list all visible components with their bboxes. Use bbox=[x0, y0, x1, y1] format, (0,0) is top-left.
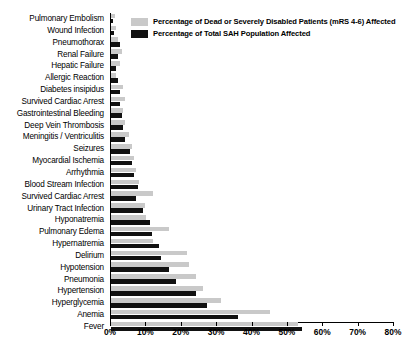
category-label: Hyponatremia bbox=[0, 214, 107, 226]
category-label: Blood Stream Infection bbox=[0, 179, 107, 191]
x-axis-tick-label: 30% bbox=[208, 327, 225, 337]
bar-black bbox=[111, 54, 118, 59]
category-label: Gastrointestinal Bleeding bbox=[0, 108, 107, 120]
bar-gray bbox=[111, 26, 116, 31]
bar-gray bbox=[111, 108, 123, 113]
category-axis-labels: Pulmonary EmbolismWound InfectionPneumot… bbox=[0, 13, 107, 333]
category-label: Arrhythmia bbox=[0, 167, 107, 179]
bar-black bbox=[111, 66, 116, 71]
bar-black bbox=[111, 125, 123, 130]
bar-row bbox=[111, 72, 394, 84]
x-axis-tick bbox=[393, 322, 394, 326]
bar-gray bbox=[111, 262, 189, 267]
category-label: Diabetes insipidus bbox=[0, 84, 107, 96]
x-axis-tick bbox=[322, 322, 323, 326]
bar-row bbox=[111, 297, 394, 309]
bar-black bbox=[111, 244, 159, 249]
category-label: Hyperglycemia bbox=[0, 297, 107, 309]
x-axis-tick-label: 20% bbox=[172, 327, 189, 337]
x-axis-tick bbox=[287, 322, 288, 326]
bar-row bbox=[111, 131, 394, 143]
bar-row bbox=[111, 108, 394, 120]
bar-gray bbox=[111, 168, 136, 173]
category-label: Wound Infection bbox=[0, 25, 107, 37]
category-label: Hepatic Failure bbox=[0, 60, 107, 72]
category-label: Myocardial Ischemia bbox=[0, 155, 107, 167]
bar-black bbox=[111, 315, 238, 320]
bar-row bbox=[111, 49, 394, 61]
bar-row bbox=[111, 250, 394, 262]
x-axis-tick bbox=[110, 322, 111, 326]
x-axis-tick bbox=[145, 322, 146, 326]
x-axis-tick bbox=[181, 322, 182, 326]
category-label: Survived Cardiac Arrest bbox=[0, 191, 107, 203]
bar-black bbox=[111, 220, 150, 225]
bar-gray bbox=[111, 97, 125, 102]
bar-gray bbox=[111, 251, 187, 256]
bar-gray bbox=[111, 191, 153, 196]
bar-row bbox=[111, 179, 394, 191]
category-label: Delirium bbox=[0, 250, 107, 262]
bar-black bbox=[111, 31, 114, 36]
bar-row bbox=[111, 214, 394, 226]
bar-row bbox=[111, 191, 394, 203]
legend-entry-gray: Percentage of Dead or Severely Disabled … bbox=[131, 16, 395, 27]
chart-legend: Percentage of Dead or Severely Disabled … bbox=[131, 16, 395, 40]
bar-row bbox=[111, 309, 394, 321]
bar-black bbox=[111, 208, 143, 213]
category-label: Seizures bbox=[0, 143, 107, 155]
bar-row bbox=[111, 120, 394, 132]
bar-row bbox=[111, 60, 394, 72]
bar-gray bbox=[111, 73, 116, 78]
bar-row bbox=[111, 226, 394, 238]
category-label: Survived Cardiac Arrest bbox=[0, 96, 107, 108]
bar-row bbox=[111, 274, 394, 286]
bar-black bbox=[111, 78, 118, 83]
legend-swatch-black-icon bbox=[131, 30, 148, 38]
bar-gray bbox=[111, 61, 120, 66]
bar-rows bbox=[111, 13, 394, 322]
bar-gray bbox=[111, 227, 169, 232]
bar-gray bbox=[111, 49, 122, 54]
legend-label-gray: Percentage of Dead or Severely Disabled … bbox=[153, 17, 395, 26]
bar-black bbox=[111, 303, 207, 308]
x-axis-tick-label: 10% bbox=[137, 327, 154, 337]
x-axis-tick-label: 60% bbox=[314, 327, 331, 337]
bar-row bbox=[111, 84, 394, 96]
bar-black bbox=[111, 102, 120, 107]
bar-black bbox=[111, 256, 161, 261]
bar-gray bbox=[111, 286, 203, 291]
bar-gray bbox=[111, 144, 132, 149]
category-label: Renal Failure bbox=[0, 49, 107, 61]
x-axis: 0%10%20%30%40%50%60%70%80% bbox=[110, 322, 393, 344]
category-label: Urinary Tract Infection bbox=[0, 203, 107, 215]
bar-row bbox=[111, 155, 394, 167]
category-label: Anemia bbox=[0, 309, 107, 321]
bar-black bbox=[111, 173, 134, 178]
bar-black bbox=[111, 113, 122, 118]
legend-swatch-gray-icon bbox=[131, 18, 148, 26]
bar-row bbox=[111, 143, 394, 155]
bar-black bbox=[111, 291, 196, 296]
bar-black bbox=[111, 196, 136, 201]
bar-black bbox=[111, 279, 176, 284]
bar-row bbox=[111, 285, 394, 297]
bar-black bbox=[111, 90, 120, 95]
bar-black bbox=[111, 185, 138, 190]
plot-area bbox=[110, 13, 394, 323]
bar-gray bbox=[111, 215, 146, 220]
category-label: Pulmonary Edema bbox=[0, 226, 107, 238]
bar-row bbox=[111, 167, 394, 179]
bar-gray bbox=[111, 120, 125, 125]
bar-row bbox=[111, 96, 394, 108]
category-label: Hypernatremia bbox=[0, 238, 107, 250]
bar-black bbox=[111, 232, 152, 237]
bar-black bbox=[111, 149, 130, 154]
bar-gray bbox=[111, 14, 115, 19]
category-label: Pneumothorax bbox=[0, 37, 107, 49]
bar-black bbox=[111, 137, 125, 142]
bar-black bbox=[111, 267, 169, 272]
x-axis-tick bbox=[252, 322, 253, 326]
bar-gray bbox=[111, 298, 221, 303]
legend-entry-black: Percentage of Total SAH Population Affec… bbox=[131, 28, 395, 39]
